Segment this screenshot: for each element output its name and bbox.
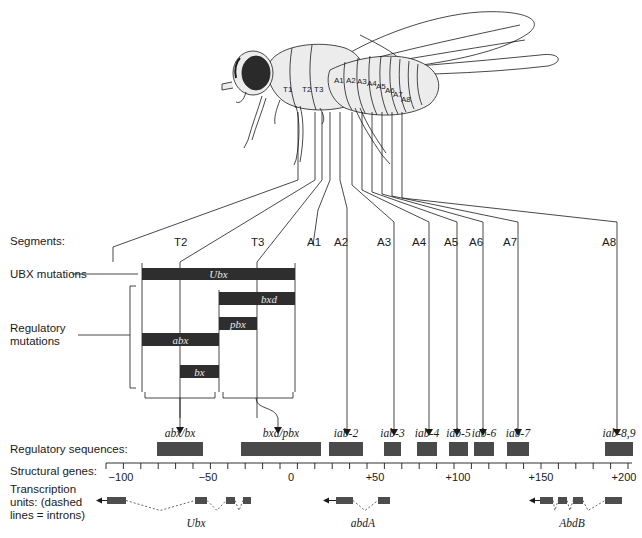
axis-tick-label: +50 bbox=[366, 471, 385, 483]
exon bbox=[336, 497, 353, 504]
fly-segment-a1: A1 bbox=[334, 76, 344, 85]
axis-tick-label: +200 bbox=[612, 471, 637, 483]
reg-sequence-label-iab-2: iab-2 bbox=[334, 427, 358, 439]
ubx-mutations-label: UBX mutations bbox=[10, 268, 87, 281]
regulatory-sequences-label: Regulatory sequences: bbox=[10, 443, 128, 456]
reg-sequence-label-iab-7: iab-7 bbox=[506, 427, 530, 439]
exon bbox=[107, 497, 126, 504]
axis-tick-label: 0 bbox=[288, 471, 294, 483]
reg-box-iab-8,9 bbox=[605, 442, 633, 456]
reg-box-bxd/pbx bbox=[241, 442, 321, 456]
reg-box-iab-4 bbox=[417, 442, 437, 456]
fly-segment-a3: A3 bbox=[357, 77, 367, 86]
segment-label-t3: T3 bbox=[251, 236, 264, 248]
transcription-units bbox=[96, 497, 622, 511]
gene-label-abda: abdA bbox=[351, 517, 375, 529]
reg-sequence-label-abx/bx: abx/bx bbox=[165, 427, 196, 439]
segment-label-a3: A3 bbox=[377, 236, 391, 248]
segment-label-a7: A7 bbox=[503, 236, 517, 248]
regulatory-mutations-label-2: mutations bbox=[10, 335, 60, 348]
reg-sequence-label-bxd/pbx: bxd/pbx bbox=[263, 427, 299, 439]
mutation-bar-label-bx: bx bbox=[194, 366, 204, 378]
transcription-units-label-3: lines = introns) bbox=[10, 509, 85, 522]
reg-box-iab-2 bbox=[329, 442, 363, 456]
segment-label-a6: A6 bbox=[469, 236, 483, 248]
reg-box-iab-7 bbox=[507, 442, 529, 456]
segment-label-a4: A4 bbox=[412, 236, 426, 248]
reg-box-abx/bx bbox=[157, 442, 203, 456]
segment-label-a2: A2 bbox=[334, 236, 348, 248]
axis-tick-label: −50 bbox=[199, 471, 218, 483]
bithorax-diagram bbox=[0, 0, 642, 538]
fly-segment-t3: T3 bbox=[314, 85, 323, 94]
reg-sequence-label-iab-3: iab-3 bbox=[380, 427, 404, 439]
segment-label-a1: A1 bbox=[307, 236, 321, 248]
reg-sequence-label-iab-8,9: iab-8,9 bbox=[603, 427, 636, 439]
mutation-bar-label-bxd: bxd bbox=[261, 293, 277, 305]
segment-label-a8: A8 bbox=[602, 236, 616, 248]
reg-box-iab-5 bbox=[449, 442, 468, 456]
axis-tick-label: −100 bbox=[109, 471, 134, 483]
exon bbox=[540, 497, 553, 504]
exon bbox=[605, 497, 622, 504]
mutation-bar-label-abx: abx bbox=[173, 334, 189, 346]
axis-tick-label: +150 bbox=[529, 471, 554, 483]
structural-genes-axis bbox=[106, 463, 632, 469]
mutation-bars bbox=[142, 268, 295, 378]
mutation-bar-label-Ubx: Ubx bbox=[209, 268, 227, 280]
mutation-bar-label-pbx: pbx bbox=[230, 318, 246, 330]
reg-sequence-label-iab-5: iab-5 bbox=[446, 427, 470, 439]
reg-box-iab-6 bbox=[474, 442, 494, 456]
regulatory-sequence-boxes bbox=[157, 442, 633, 456]
transcription-units-label-1: Transcription bbox=[10, 483, 76, 496]
fly-segment-a8: A8 bbox=[401, 95, 411, 104]
segment-label-t2: T2 bbox=[174, 236, 187, 248]
transcription-units-label-2: units: (dashed bbox=[10, 496, 82, 509]
fly-segment-t1: T1 bbox=[283, 85, 292, 94]
exon bbox=[378, 497, 390, 504]
regulatory-mutations-label-1: Regulatory bbox=[10, 322, 66, 335]
gene-label-ubx: Ubx bbox=[186, 517, 205, 529]
exon bbox=[573, 497, 583, 504]
structural-genes-label: Structural genes: bbox=[10, 465, 97, 478]
reg-box-iab-3 bbox=[384, 442, 401, 456]
mutation-bar-bxd bbox=[219, 292, 295, 305]
gene-label-abdb: AbdB bbox=[559, 517, 585, 529]
exon bbox=[558, 497, 567, 504]
exon bbox=[243, 497, 251, 504]
segment-label-a5: A5 bbox=[444, 236, 458, 248]
fly-segment-a2: A2 bbox=[346, 76, 356, 85]
axis-tick-label: +100 bbox=[446, 471, 471, 483]
exon bbox=[226, 497, 235, 504]
reg-sequence-label-iab-6: iab-6 bbox=[472, 427, 496, 439]
reg-sequence-label-iab-4: iab-4 bbox=[415, 427, 439, 439]
exon bbox=[195, 497, 207, 504]
fly-segment-t2: T2 bbox=[302, 85, 311, 94]
segments-row-label: Segments: bbox=[10, 235, 65, 248]
